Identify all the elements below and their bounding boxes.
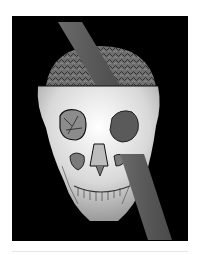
divider (12, 251, 188, 252)
ct-image-panel (12, 16, 188, 241)
orbit-left (110, 111, 138, 142)
skull-rod-illustration (12, 16, 188, 241)
